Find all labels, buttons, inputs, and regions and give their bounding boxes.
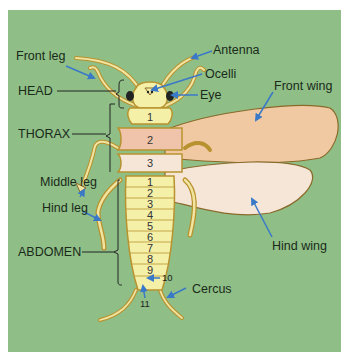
- label-head: HEAD: [18, 84, 53, 98]
- label-thorax: THORAX: [18, 127, 71, 141]
- thorax-segment-3: 3: [147, 157, 153, 169]
- antennae: [76, 57, 195, 90]
- label-segment-10: 10: [162, 272, 173, 283]
- front-wing: [165, 105, 338, 162]
- label-front-wing: Front wing: [274, 79, 332, 93]
- label-eye: Eye: [200, 88, 222, 102]
- eye-right: [166, 91, 174, 101]
- antenna-arrow: [192, 51, 212, 58]
- cercus-arrow: [168, 288, 186, 297]
- label-hind-leg: Hind leg: [42, 201, 88, 215]
- label-cercus: Cercus: [192, 282, 232, 296]
- thorax-segment-1: 1: [147, 111, 153, 123]
- thorax: 1 2 3: [118, 108, 182, 172]
- label-middle-leg: Middle leg: [40, 175, 97, 189]
- label-front-leg: Front leg: [16, 49, 65, 63]
- label-hind-wing: Hind wing: [272, 239, 327, 253]
- insect-diagram: 1 2 3 1 2 3 4 5 6 7 8 9: [0, 0, 347, 360]
- label-antenna: Antenna: [213, 43, 260, 57]
- thorax-segment-2: 2: [147, 134, 153, 146]
- hind-wing: [165, 162, 313, 215]
- eye-left: [126, 91, 134, 101]
- label-segment-11: 11: [140, 298, 150, 309]
- label-abdomen: ABDOMEN: [18, 245, 81, 259]
- label-ocelli: Ocelli: [205, 67, 236, 81]
- abdomen-segment-9: 9: [147, 264, 153, 276]
